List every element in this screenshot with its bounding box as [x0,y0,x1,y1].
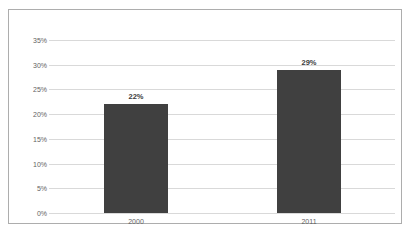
y-tick-label-0: 0% [17,210,47,217]
chart-border-frame: 0%5%10%15%20%25%30%35% 22%29% 20002011 [8,9,402,224]
plot-area: 22%29% [49,40,395,213]
bar-group-2000[interactable]: 22% [104,40,168,213]
gridline-10 [49,164,395,165]
gridline-35 [49,40,395,41]
bar-value-label-2011: 29% [277,59,341,67]
y-axis-tick-labels: 0%5%10%15%20%25%30%35% [17,40,47,213]
gridline-15 [49,139,395,140]
y-tick-label-15: 15% [17,136,47,143]
gridline-20 [49,114,395,115]
bar-value-label-2000: 22% [104,93,168,101]
y-tick-label-10: 10% [17,161,47,168]
gridline-30 [49,65,395,66]
bar-chart-figure: 0%5%10%15%20%25%30%35% 22%29% 20002011 [0,0,410,236]
gridline-0 [49,213,395,214]
y-tick-label-20: 20% [17,111,47,118]
y-tick-label-30: 30% [17,62,47,69]
bar-group-2011[interactable]: 29% [277,40,341,213]
gridline-25 [49,89,395,90]
y-tick-label-35: 35% [17,37,47,44]
y-tick-label-25: 25% [17,86,47,93]
x-tick-label-2000: 2000 [104,218,168,225]
x-axis-category-labels: 20002011 [49,218,395,232]
y-tick-label-5: 5% [17,185,47,192]
bar-2000[interactable] [104,104,168,213]
bar-2011[interactable] [277,70,341,213]
x-tick-label-2011: 2011 [277,218,341,225]
gridline-5 [49,188,395,189]
